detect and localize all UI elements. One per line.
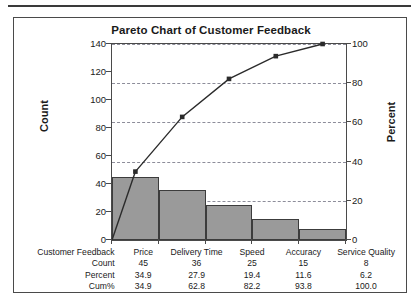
x-tick-mark bbox=[298, 239, 299, 244]
chart-title: Pareto Chart of Customer Feedback bbox=[14, 24, 408, 36]
table-cell: 8 bbox=[330, 258, 402, 269]
y-tick-mark-left bbox=[106, 211, 111, 212]
table-cell: 15 bbox=[277, 258, 330, 269]
y-tick-mark-right bbox=[346, 200, 351, 201]
y-tick-mark-left bbox=[106, 99, 111, 100]
y-tick-label-left: 140 bbox=[90, 38, 106, 49]
plot-area bbox=[111, 43, 347, 241]
y-tick-label-right: 100 bbox=[352, 38, 368, 49]
y-tick-label-right: 40 bbox=[352, 155, 363, 166]
y-tick-mark-left bbox=[106, 155, 111, 156]
table-row-label: Count bbox=[20, 258, 121, 269]
y-tick-mark-right bbox=[346, 239, 351, 240]
y-tick-mark-left bbox=[106, 127, 111, 128]
y-tick-label-right: 20 bbox=[352, 194, 363, 205]
y-tick-mark-right bbox=[346, 43, 351, 44]
table-cell: 82.2 bbox=[227, 281, 276, 292]
x-tick-mark bbox=[205, 239, 206, 244]
cumulative-marker-speed bbox=[227, 77, 232, 82]
y-tick-label-right: 80 bbox=[352, 77, 363, 88]
table-cell: 27.9 bbox=[166, 270, 228, 281]
x-tick-mark bbox=[111, 239, 112, 244]
table-cell: Price bbox=[121, 247, 166, 258]
table-cell: 34.9 bbox=[121, 281, 166, 292]
top-divider-rule bbox=[8, 5, 411, 7]
y-axis-left-ticks: 020406080100120140 bbox=[70, 43, 106, 239]
table-cell: 11.6 bbox=[277, 270, 330, 281]
table-cell: 19.4 bbox=[227, 270, 276, 281]
y-axis-right-ticks: 020406080100 bbox=[352, 43, 386, 239]
cumulative-line-lead-segment bbox=[112, 172, 135, 240]
y-tick-mark-right bbox=[346, 82, 351, 83]
y-tick-mark-left bbox=[106, 43, 111, 44]
y-tick-label-left: 40 bbox=[95, 178, 106, 189]
y-tick-mark-left bbox=[106, 71, 111, 72]
y-tick-mark-right bbox=[346, 121, 351, 122]
table-cell: Accuracy bbox=[277, 247, 330, 258]
x-tick-mark bbox=[158, 239, 159, 244]
x-tick-mark bbox=[251, 239, 252, 244]
y-tick-label-left: 60 bbox=[95, 150, 106, 161]
cumulative-marker-accuracy bbox=[274, 54, 279, 59]
y-tick-mark-right bbox=[346, 161, 351, 162]
table-cell: Speed bbox=[227, 247, 276, 258]
table-row: Customer FeedbackPriceDelivery TimeSpeed… bbox=[20, 247, 402, 258]
cumulative-marker-service-quality bbox=[320, 42, 325, 47]
x-axis-ticks bbox=[111, 239, 345, 245]
y-tick-label-left: 120 bbox=[90, 66, 106, 77]
table-row-label: Percent bbox=[20, 270, 121, 281]
table-cell: Service Quality bbox=[330, 247, 402, 258]
table-cell: Delivery Time bbox=[166, 247, 228, 258]
table-row: Count453625158 bbox=[20, 258, 402, 269]
table-cell: 93.8 bbox=[277, 281, 330, 292]
y-tick-mark-left bbox=[106, 183, 111, 184]
y-tick-label-right: 0 bbox=[352, 234, 357, 245]
cumulative-marker-price bbox=[133, 169, 138, 174]
table-cell: 6.2 bbox=[330, 270, 402, 281]
table-row-label: Cum% bbox=[20, 281, 121, 292]
y-tick-mark-left bbox=[106, 239, 111, 240]
cumulative-percent-line bbox=[112, 44, 346, 240]
table-cell: 45 bbox=[121, 258, 166, 269]
table-cell: 62.8 bbox=[166, 281, 228, 292]
y-tick-label-right: 60 bbox=[352, 116, 363, 127]
table-cell: 34.9 bbox=[121, 270, 166, 281]
table-row: Percent34.927.919.411.66.2 bbox=[20, 270, 402, 281]
pareto-chart-figure: Pareto Chart of Customer Feedback Count … bbox=[13, 17, 407, 293]
table-cell: 36 bbox=[166, 258, 228, 269]
y-tick-label-left: 20 bbox=[95, 206, 106, 217]
pareto-data-table: Customer FeedbackPriceDelivery TimeSpeed… bbox=[20, 247, 402, 292]
table-row: Cum%34.962.882.293.8100.0 bbox=[20, 281, 402, 292]
y-axis-label-count: Count bbox=[38, 100, 50, 132]
table-cell: 25 bbox=[227, 258, 276, 269]
table-row-label: Customer Feedback bbox=[20, 247, 121, 258]
y-tick-label-left: 100 bbox=[90, 94, 106, 105]
y-tick-label-left: 80 bbox=[95, 122, 106, 133]
cumulative-marker-delivery-time bbox=[180, 115, 185, 120]
cumulative-line-path bbox=[135, 44, 322, 172]
table-cell: 100.0 bbox=[330, 281, 402, 292]
y-axis-label-percent: Percent bbox=[385, 102, 397, 142]
